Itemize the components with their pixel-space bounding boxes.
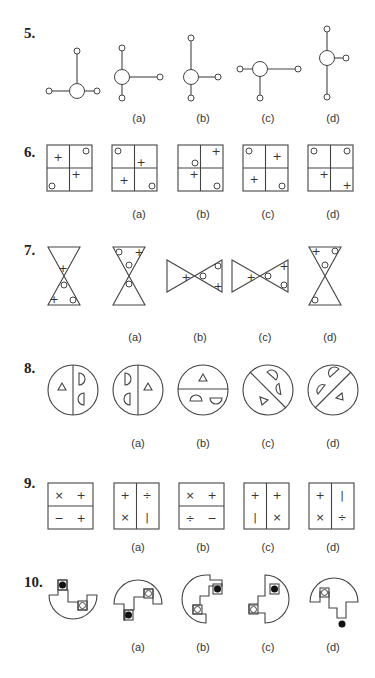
svg-text:+: +	[246, 271, 255, 284]
q9-option-d-figure[interactable]: + | × ÷	[309, 483, 354, 529]
figures-canvas: + + + + + + + + + +	[0, 0, 375, 678]
svg-text:+: +	[53, 151, 62, 164]
q6-option-b-figure[interactable]: + +	[178, 145, 223, 192]
svg-text:+: +	[272, 150, 281, 163]
svg-text:+: +	[211, 145, 220, 158]
q9-option-a-figure[interactable]: + ÷ × |	[114, 483, 159, 529]
q5-option-d-figure[interactable]	[320, 26, 350, 100]
svg-text:−: −	[207, 512, 216, 525]
svg-text:|: |	[145, 511, 149, 524]
svg-text:÷: ÷	[142, 489, 151, 502]
q10-option-a-figure[interactable]	[114, 580, 162, 620]
q9-option-b-figure[interactable]: × + ÷ −	[179, 483, 224, 529]
q5-option-c-figure[interactable]	[237, 62, 301, 102]
q8-option-c-figure[interactable]	[243, 365, 293, 415]
svg-text:+: +	[76, 512, 85, 525]
svg-text:+: +	[71, 168, 80, 181]
q6-option-d-figure[interactable]: + +	[308, 145, 353, 192]
q6-option-c-figure[interactable]: + +	[243, 145, 288, 191]
q5-option-a-figure[interactable]	[115, 45, 164, 101]
svg-text:÷: ÷	[185, 512, 194, 525]
svg-text:+: +	[279, 260, 288, 273]
svg-text:×: ×	[54, 489, 63, 502]
svg-text:|: |	[253, 511, 257, 524]
svg-text:+: +	[249, 173, 258, 186]
svg-text:×: ×	[185, 489, 194, 502]
svg-text:+: +	[272, 489, 281, 502]
q9-option-c-figure[interactable]: + + | ×	[244, 483, 289, 529]
svg-text:+: +	[207, 489, 216, 502]
q10-option-b-figure[interactable]	[182, 575, 222, 623]
q9-question-figure: × + − +	[48, 483, 93, 529]
svg-text:+: +	[120, 489, 129, 502]
q5-question-figure	[46, 48, 100, 99]
svg-text:×: ×	[315, 511, 324, 524]
svg-text:×: ×	[272, 511, 281, 524]
svg-text:+: +	[76, 489, 85, 502]
svg-text:+: +	[119, 174, 128, 187]
q10-option-d-figure[interactable]	[310, 578, 358, 628]
svg-text:+: +	[58, 262, 67, 275]
q10-question-figure	[49, 580, 97, 619]
svg-text:+: +	[315, 489, 324, 502]
q6-option-a-figure[interactable]: + +	[112, 145, 157, 191]
svg-text:+: +	[311, 245, 320, 258]
svg-text:−: −	[54, 512, 63, 525]
svg-text:×: ×	[120, 511, 129, 524]
svg-text:+: +	[250, 489, 259, 502]
q8-option-d-figure[interactable]	[308, 365, 358, 415]
svg-text:+: +	[134, 246, 143, 259]
svg-text:+: +	[181, 271, 190, 284]
q10-option-c-figure[interactable]	[249, 575, 289, 623]
q5-option-b-figure[interactable]	[184, 35, 222, 101]
q8-question-figure	[48, 365, 98, 415]
svg-text:+: +	[189, 168, 198, 181]
svg-text:+: +	[342, 179, 351, 192]
q6-question-figure: + +	[47, 145, 92, 191]
svg-text:|: |	[340, 489, 344, 502]
q8-option-a-figure[interactable]	[113, 365, 163, 415]
q7-option-d-figure[interactable]: +	[309, 245, 341, 306]
q7-question-figure: + +	[48, 247, 80, 306]
svg-text:+: +	[319, 168, 328, 181]
q7-option-c-figure[interactable]: + +	[232, 260, 289, 293]
q7-option-a-figure[interactable]: +	[113, 246, 145, 306]
svg-text:+: +	[213, 280, 222, 293]
svg-text:+: +	[49, 293, 58, 306]
svg-text:÷: ÷	[337, 511, 346, 524]
q8-option-b-figure[interactable]	[178, 365, 228, 415]
svg-text:+: +	[136, 156, 145, 169]
q7-option-b-figure[interactable]: + +	[167, 260, 223, 293]
